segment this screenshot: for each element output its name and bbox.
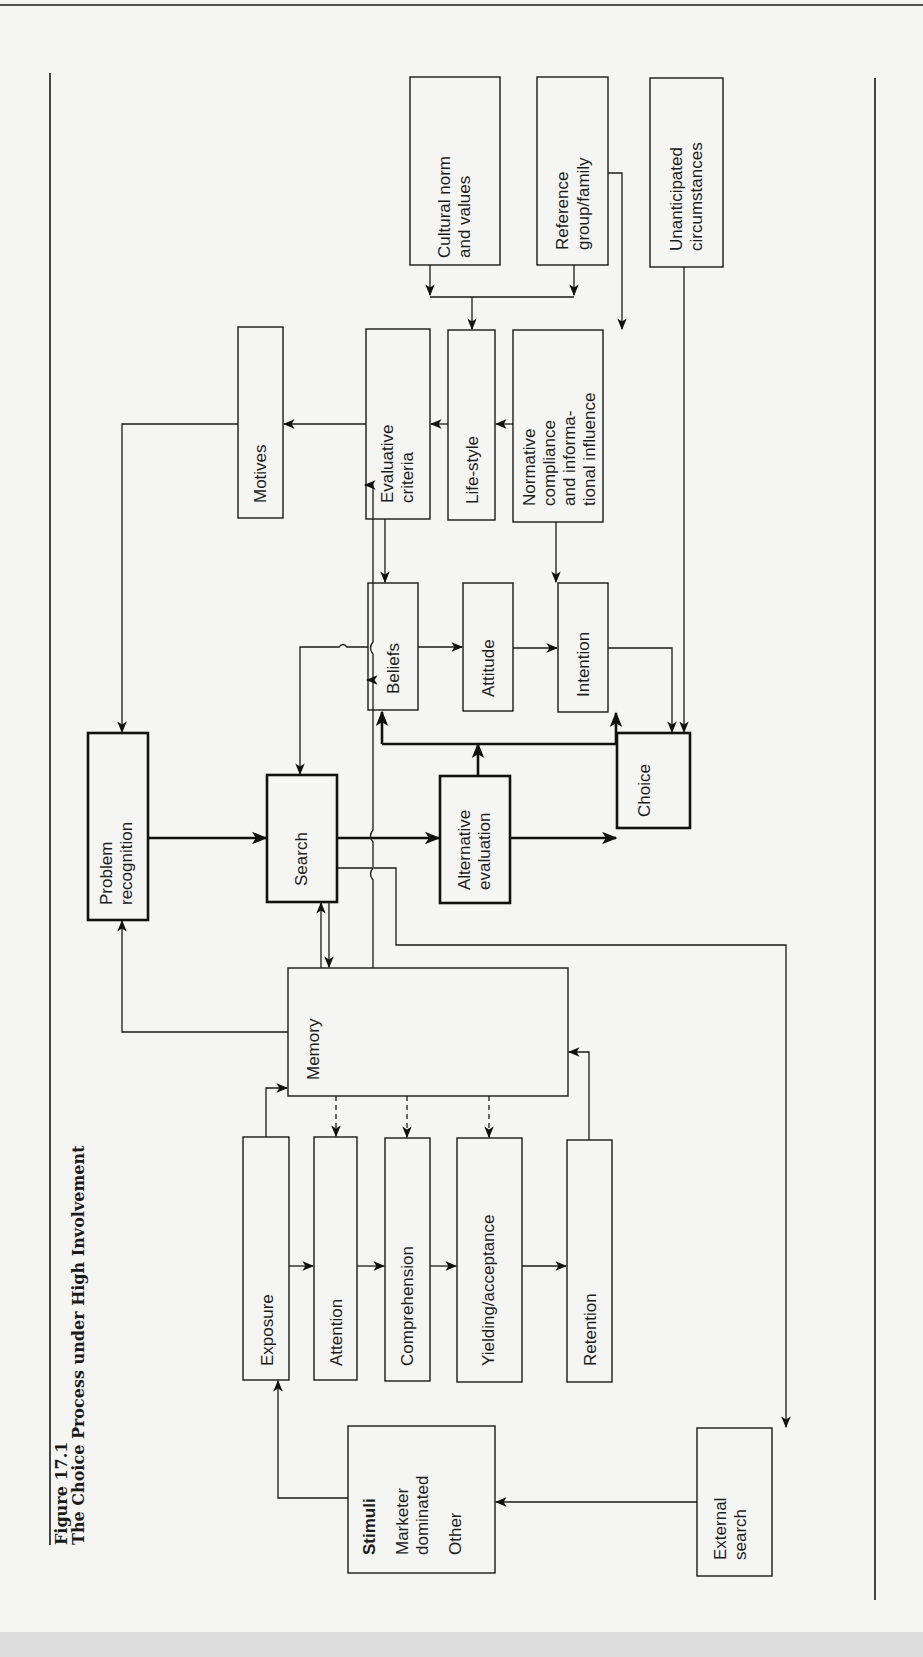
svg-text:Beliefs: Beliefs [384,643,403,694]
node-reference-group: Reference group/family [537,77,608,265]
node-yielding-acceptance: Yielding/acceptance [457,1138,522,1382]
figure-title: The Choice Process under High Involvemen… [69,1145,88,1545]
node-search: Search [267,775,337,902]
svg-text:dominated: dominated [413,1476,432,1555]
svg-text:Motives: Motives [251,444,270,503]
svg-text:and values: and values [455,176,474,258]
node-problem-recognition: Problem recognition [88,733,148,920]
svg-text:Memory: Memory [304,1018,323,1080]
node-external-search: External search [697,1428,772,1576]
svg-text:Yielding/acceptance: Yielding/acceptance [479,1214,498,1366]
node-memory: Memory [288,968,568,1096]
svg-text:Comprehension: Comprehension [398,1246,417,1366]
node-cultural-norm: Cultural norm and values [410,77,500,265]
svg-text:Attention: Attention [327,1299,346,1366]
node-retention: Retention [567,1140,612,1382]
svg-text:and informa-: and informa- [560,411,579,506]
node-stimuli: Stimuli Marketer dominated Other [348,1426,495,1573]
svg-text:group/family: group/family [574,157,593,250]
svg-text:Attitude: Attitude [479,639,498,697]
svg-text:Marketer: Marketer [393,1488,412,1555]
svg-text:Problem: Problem [97,842,116,905]
svg-text:recognition: recognition [117,822,136,905]
svg-text:Normative: Normative [520,429,539,506]
page-edge-shadow [0,1632,923,1657]
node-choice: Choice [617,733,690,828]
node-evaluative-criteria: Evaluative criteria [366,329,430,519]
svg-text:Alternative: Alternative [455,810,474,890]
svg-text:circumstances: circumstances [687,142,706,251]
svg-text:Search: Search [292,832,311,886]
svg-text:Stimuli: Stimuli [360,1498,379,1555]
node-exposure: Exposure [243,1137,289,1380]
svg-text:Choice: Choice [635,764,654,817]
svg-text:evaluation: evaluation [475,812,494,890]
node-unanticipated-circumstances: Unanticipated circumstances [650,78,723,267]
node-motives: Motives [238,327,283,518]
svg-text:Life-style: Life-style [463,436,482,504]
node-beliefs: Beliefs [368,583,418,710]
svg-text:Other: Other [446,1512,465,1555]
svg-text:Reference: Reference [553,172,572,250]
connectors [122,173,786,1502]
svg-text:search: search [731,1509,750,1560]
node-normative-compliance: Normative compliance and informa- tional… [513,330,603,522]
svg-text:Exposure: Exposure [258,1294,277,1366]
svg-text:Intention: Intention [574,632,593,697]
choice-process-diagram: Figure 17.1 The Choice Process under Hig… [0,0,923,1657]
svg-text:Unanticipated: Unanticipated [667,147,686,251]
book-page: Figure 17.1 The Choice Process under Hig… [0,0,923,1657]
svg-text:criteria: criteria [398,451,417,503]
node-attitude: Attitude [463,583,513,711]
figure-caption: Figure 17.1 The Choice Process under Hig… [52,1145,88,1545]
svg-text:tional influence: tional influence [580,393,599,506]
node-life-style: Life-style [448,330,495,520]
svg-text:Cultural norm: Cultural norm [435,156,454,258]
node-comprehension: Comprehension [385,1138,430,1381]
node-alternative-evaluation: Alternative evaluation [440,776,510,903]
svg-text:External: External [711,1498,730,1560]
node-attention: Attention [314,1137,357,1380]
svg-text:Retention: Retention [581,1293,600,1366]
svg-text:compliance: compliance [540,420,559,506]
node-intention: Intention [558,583,608,712]
svg-text:Evaluative: Evaluative [378,425,397,503]
